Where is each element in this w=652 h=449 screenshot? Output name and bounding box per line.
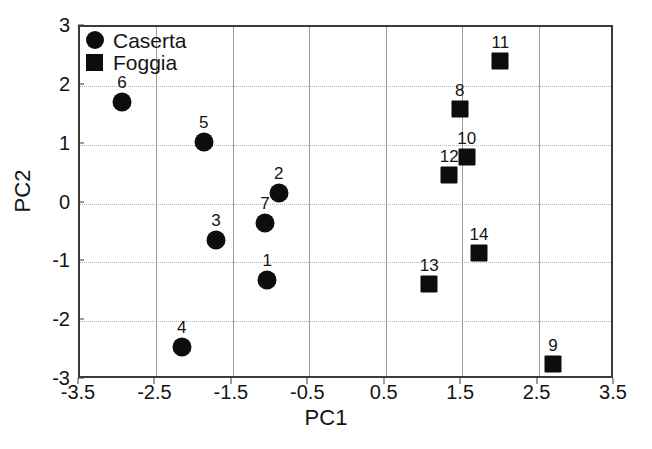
y-axis-label: PC2 [12, 146, 34, 236]
data-point-label-5: 5 [199, 114, 208, 131]
data-point-label-6: 6 [117, 74, 126, 91]
data-point-label-2: 2 [274, 165, 283, 182]
data-point-10[interactable] [458, 149, 475, 166]
x-tick-mark [78, 378, 79, 384]
data-point-5[interactable] [194, 132, 213, 151]
data-points-layer: 1234567891011121314 [80, 27, 611, 376]
y-tick-label: -1 [52, 250, 70, 270]
x-tick-label: 0.5 [370, 382, 398, 402]
x-tick-label: -2.5 [137, 382, 171, 402]
y-tick-mark [78, 142, 84, 143]
y-tick-mark [78, 319, 84, 320]
data-point-label-10: 10 [457, 130, 476, 147]
x-axis-label: PC1 [0, 407, 652, 429]
data-point-label-9: 9 [548, 337, 557, 354]
square-marker-icon [86, 54, 106, 71]
plot-area: 1234567891011121314 [78, 25, 613, 378]
data-point-13[interactable] [421, 276, 438, 293]
data-point-2[interactable] [269, 183, 288, 202]
y-tick-mark [78, 201, 84, 202]
y-tick-label: -2 [52, 309, 70, 329]
data-point-6[interactable] [113, 92, 132, 111]
data-point-label-7: 7 [260, 195, 269, 212]
x-tick-label: -0.5 [290, 382, 324, 402]
y-tick-mark [78, 83, 84, 84]
y-tick-mark [78, 25, 84, 26]
legend-entry-foggia: Foggia [86, 51, 187, 73]
data-point-1[interactable] [258, 270, 277, 289]
y-tick-label: 3 [59, 15, 70, 35]
data-point-label-1: 1 [263, 252, 272, 269]
data-point-14[interactable] [470, 244, 487, 261]
legend-label-foggia: Foggia [113, 52, 177, 73]
data-point-label-8: 8 [455, 82, 464, 99]
circle-marker-icon [86, 31, 106, 49]
x-tick-mark [230, 378, 231, 384]
x-tick-mark [154, 378, 155, 384]
data-point-label-13: 13 [420, 257, 439, 274]
data-point-9[interactable] [545, 356, 562, 373]
y-tick-mark [78, 378, 84, 379]
x-tick-mark [460, 378, 461, 384]
y-tick-label: 1 [59, 133, 70, 153]
x-tick-label: 3.5 [599, 382, 627, 402]
data-point-label-4: 4 [177, 319, 186, 336]
y-tick-label: -3 [52, 368, 70, 388]
scatter-plot-figure: 1234567891011121314 Caserta Foggia -3.5-… [0, 0, 652, 449]
x-tick-label: 1.5 [446, 382, 474, 402]
data-point-3[interactable] [207, 230, 226, 249]
data-point-label-3: 3 [211, 212, 220, 229]
x-tick-mark [613, 378, 614, 384]
y-tick-label: 2 [59, 74, 70, 94]
data-point-label-14: 14 [469, 226, 488, 243]
data-point-8[interactable] [451, 100, 468, 117]
data-point-12[interactable] [441, 167, 458, 184]
x-tick-label: -1.5 [214, 382, 248, 402]
x-tick-mark [383, 378, 384, 384]
data-point-label-12: 12 [440, 148, 459, 165]
x-tick-mark [536, 378, 537, 384]
data-point-7[interactable] [255, 213, 274, 232]
x-tick-mark [307, 378, 308, 384]
data-point-11[interactable] [492, 53, 509, 70]
y-tick-label: 0 [59, 192, 70, 212]
legend-label-caserta: Caserta [113, 30, 187, 51]
legend: Caserta Foggia [86, 29, 187, 73]
data-point-4[interactable] [172, 338, 191, 357]
legend-entry-caserta: Caserta [86, 29, 187, 51]
data-point-label-11: 11 [492, 34, 510, 51]
x-tick-label: 2.5 [523, 382, 551, 402]
y-tick-mark [78, 260, 84, 261]
